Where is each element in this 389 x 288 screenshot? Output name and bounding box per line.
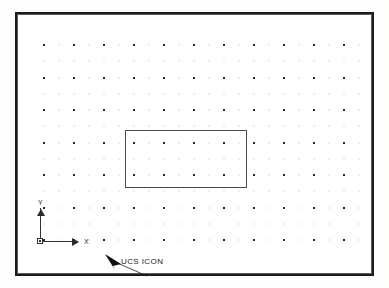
- grid-dot: [44, 223, 45, 224]
- grid-dot: [149, 126, 150, 127]
- grid-dot: [119, 207, 120, 208]
- grid-dot: [149, 45, 150, 46]
- grid-dot: [73, 142, 75, 144]
- grid-dot: [133, 109, 135, 111]
- grid-dot: [343, 207, 345, 209]
- grid-dot: [329, 223, 330, 224]
- grid-dot: [44, 126, 45, 127]
- grid-dot: [283, 239, 285, 241]
- grid-dot: [343, 239, 345, 241]
- grid-dot: [193, 109, 195, 111]
- grid-dot: [284, 61, 285, 62]
- grid-dot: [44, 191, 45, 192]
- grid-dot: [43, 109, 45, 111]
- grid-dot: [103, 207, 105, 209]
- grid-dot: [89, 191, 90, 192]
- grid-dot: [329, 158, 330, 159]
- grid-dot: [344, 158, 345, 159]
- grid-dot: [239, 191, 240, 192]
- grid-dot: [134, 126, 135, 127]
- grid-dot: [209, 223, 210, 224]
- grid-dot: [344, 93, 345, 94]
- grid-dot: [269, 77, 270, 78]
- grid-dot: [209, 61, 210, 62]
- grid-dot: [313, 174, 315, 176]
- grid-dot: [59, 158, 60, 159]
- grid-dot: [359, 175, 360, 176]
- grid-dot: [149, 93, 150, 94]
- grid-dot: [344, 191, 345, 192]
- grid-dot: [269, 175, 270, 176]
- grid-dot: [223, 109, 225, 111]
- grid-dot: [313, 77, 315, 79]
- grid-dot: [163, 44, 165, 46]
- grid-dot: [314, 223, 315, 224]
- grid-dot: [43, 174, 45, 176]
- grid-dot: [74, 126, 75, 127]
- grid-dot: [343, 109, 345, 111]
- grid-dot: [119, 110, 120, 111]
- grid-dot: [163, 109, 165, 111]
- grid-dot: [314, 191, 315, 192]
- grid-dot: [223, 239, 225, 241]
- grid-dot: [329, 142, 330, 143]
- grid-dot: [299, 223, 300, 224]
- grid-dot: [359, 61, 360, 62]
- grid-dot: [209, 126, 210, 127]
- grid-dot: [164, 61, 165, 62]
- grid-dot: [359, 77, 360, 78]
- grid-dot: [164, 191, 165, 192]
- grid-dot: [314, 126, 315, 127]
- grid-dot: [134, 61, 135, 62]
- ucs-y-axis-label: Y: [38, 199, 43, 206]
- grid-dot: [119, 175, 120, 176]
- grid-dot: [254, 158, 255, 159]
- grid-dot: [254, 223, 255, 224]
- grid-dot: [59, 191, 60, 192]
- grid-dot: [329, 126, 330, 127]
- grid-dot: [193, 207, 195, 209]
- grid-dot: [299, 110, 300, 111]
- grid-dot: [149, 110, 150, 111]
- grid-dot: [119, 223, 120, 224]
- grid-dot: [103, 109, 105, 111]
- grid-dot: [89, 45, 90, 46]
- grid-dot: [163, 239, 165, 241]
- grid-dot: [359, 191, 360, 192]
- drawing-canvas[interactable]: Y X: [17, 14, 372, 274]
- grid-dot: [209, 45, 210, 46]
- grid-dot: [134, 191, 135, 192]
- grid-dot: [284, 223, 285, 224]
- grid-dot: [329, 93, 330, 94]
- grid-dot: [344, 126, 345, 127]
- grid-dot: [209, 110, 210, 111]
- grid-dot: [74, 223, 75, 224]
- grid-dot: [119, 126, 120, 127]
- grid-dot: [223, 77, 225, 79]
- grid-dot: [163, 207, 165, 209]
- grid-dot: [43, 77, 45, 79]
- grid-dot: [89, 126, 90, 127]
- grid-dot: [254, 126, 255, 127]
- grid-dot: [133, 207, 135, 209]
- grid-dot: [239, 207, 240, 208]
- grid-dot: [134, 93, 135, 94]
- grid-dot: [283, 77, 285, 79]
- grid-dot: [89, 77, 90, 78]
- grid-dot: [343, 77, 345, 79]
- grid-dot: [253, 44, 255, 46]
- grid-dot: [89, 61, 90, 62]
- grid-dot: [359, 158, 360, 159]
- grid-dot: [103, 239, 105, 241]
- rectangle-entity[interactable]: [125, 130, 247, 188]
- grid-dot: [149, 77, 150, 78]
- grid-dot: [253, 77, 255, 79]
- grid-dot: [119, 191, 120, 192]
- grid-dot: [299, 126, 300, 127]
- grid-dot: [89, 207, 90, 208]
- grid-dot: [359, 207, 360, 208]
- grid-dot: [104, 191, 105, 192]
- grid-dot: [344, 61, 345, 62]
- grid-dot: [149, 223, 150, 224]
- grid-dot: [133, 44, 135, 46]
